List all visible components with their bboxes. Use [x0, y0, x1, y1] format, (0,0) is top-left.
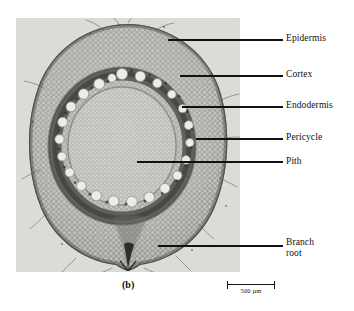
xylem-vessel — [58, 117, 68, 127]
scale-bar-label: 500 µm — [227, 287, 275, 294]
xylem-vessel — [153, 79, 162, 88]
xylem-vessel — [168, 90, 177, 99]
xylem-vessel — [58, 152, 67, 161]
xylem-vessel — [182, 156, 191, 165]
xylem-vessel — [186, 139, 194, 147]
xylem-vessel — [78, 89, 88, 99]
xylem-vessel — [116, 68, 127, 79]
xylem-vessel — [108, 196, 119, 207]
xylem-vessel — [126, 196, 137, 207]
label-pith: Pith — [286, 156, 302, 167]
panel-caption: (b) — [122, 279, 134, 290]
figure-root: Epidermis Cortex Endodermis Pericycle Pi… — [0, 0, 354, 311]
xylem-vessel — [66, 102, 76, 112]
xylem-vessel — [65, 168, 74, 177]
label-epidermis: Epidermis — [286, 33, 326, 44]
micrograph-panel — [16, 18, 240, 272]
xylem-vessel — [173, 171, 182, 180]
xylem-vessel — [179, 105, 187, 113]
label-pericycle: Pericycle — [286, 132, 322, 143]
label-cortex: Cortex — [286, 69, 312, 80]
scale-bar: 500 µm — [227, 280, 275, 300]
xylem-vessel — [135, 71, 145, 81]
label-branch-root: Branch root — [286, 237, 314, 259]
root-cross-section-micrograph — [16, 18, 240, 272]
xylem-vessel — [94, 79, 105, 90]
xylem-vessel — [160, 183, 170, 193]
xylem-vessel — [55, 135, 64, 144]
xylem-vessel — [77, 181, 87, 191]
label-endodermis: Endodermis — [286, 100, 333, 111]
xylem-vessel — [91, 191, 101, 201]
